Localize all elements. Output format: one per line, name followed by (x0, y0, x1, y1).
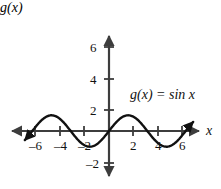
x-tick-label-6: 6 (179, 139, 186, 152)
y-tick-label-neg2: –2 (86, 157, 99, 170)
x-axis-label: x (206, 124, 212, 138)
x-tick-label-neg6: –6 (29, 139, 42, 152)
y-tick-label-2: 2 (90, 104, 97, 117)
sine-function-graph: g(x) x g(x) = sin x –6 –4 –2 2 4 6 6 4 2… (0, 0, 221, 189)
x-tick-label-4: 4 (155, 139, 162, 152)
y-tick-label-4: 4 (90, 73, 97, 86)
function-equation-label: g(x) = sin x (130, 88, 195, 102)
x-tick-label-neg4: –4 (54, 139, 67, 152)
x-tick-label-neg2: –2 (78, 139, 91, 152)
x-tick-label-2: 2 (130, 139, 137, 152)
y-tick-label-6: 6 (90, 41, 97, 54)
